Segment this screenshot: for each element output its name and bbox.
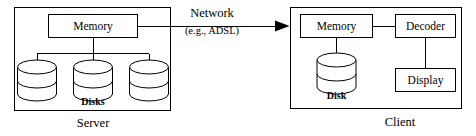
display-label: Display: [408, 74, 444, 87]
client-group-label: Client: [385, 115, 416, 129]
server-disks-label: Disks: [81, 96, 104, 107]
network-arrowhead-icon: [275, 21, 290, 32]
server-disk-3: [130, 60, 169, 101]
network-label: Network: [190, 6, 234, 20]
network-sublabel: (e.g., ADSL): [185, 25, 240, 37]
decoder-label: Decoder: [406, 20, 445, 32]
server-group-label: Server: [77, 116, 110, 130]
diagram-svg: Memory Disks Server Network (e.g., ADSL)…: [0, 0, 476, 136]
server-memory-label: Memory: [73, 20, 113, 33]
client-disk-label: Disk: [327, 90, 347, 101]
client-memory-label: Memory: [317, 20, 357, 33]
client-disk: [317, 53, 356, 94]
diagram-canvas: Memory Disks Server Network (e.g., ADSL)…: [0, 0, 476, 136]
server-disk-2: [74, 60, 113, 101]
server-disk-1: [18, 60, 57, 101]
